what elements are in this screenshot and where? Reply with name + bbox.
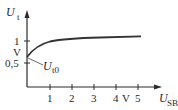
y-axis-arrow-icon (25, 10, 30, 18)
curve-ut (27, 36, 141, 57)
x-tick-label-5: 5 (135, 92, 141, 104)
y-tick-label-05: 0,5 (5, 57, 19, 69)
x-tick-label-1: 1 (47, 92, 53, 104)
annotation-label-sub: t0 (52, 65, 60, 75)
x-tick-label-4: 4 (113, 92, 119, 104)
chart-svg: U t 1 V 0,5 U t0 1 2 3 4 V 5 U SB (0, 0, 178, 110)
y-axis-label: U (6, 5, 16, 19)
y-axis-label-sub: t (17, 12, 20, 22)
x-tick-label-3: 3 (91, 92, 97, 104)
chart: U t 1 V 0,5 U t0 1 2 3 4 V 5 U SB (0, 0, 178, 110)
x-axis-arrow-icon (154, 85, 162, 90)
x-unit-label: V (122, 92, 130, 104)
x-tick-label-2: 2 (69, 92, 75, 104)
x-axis-label-sub: SB (167, 98, 178, 108)
annotation-leader (28, 58, 43, 65)
